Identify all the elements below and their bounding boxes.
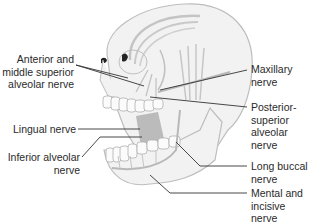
label-inferior-alveolar-nerve: Inferior alveolar nerve	[2, 151, 80, 176]
label-lingual-nerve: Lingual nerve	[2, 123, 76, 136]
label-maxillary-nerve: Maxillary nerve	[251, 63, 309, 88]
label-posterior-superior-alveolar-nerve: Posterior- superior alveolar nerve	[251, 101, 309, 151]
label-anterior-middle-superior-alveolar-nerve: Anterior and middle superior alveolar ne…	[2, 53, 74, 91]
label-long-buccal-nerve: Long buccal nerve	[251, 160, 309, 185]
label-mental-incisive-nerve: Mental and incisive nerve	[251, 187, 309, 222]
skull-nerve-diagram: Anterior and middle superior alveolar ne…	[0, 0, 309, 222]
